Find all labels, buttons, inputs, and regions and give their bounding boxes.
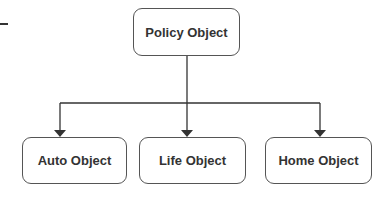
node-label: Policy Object <box>145 25 227 40</box>
node-label: Life Object <box>159 153 226 168</box>
node-label: Auto Object <box>38 153 112 168</box>
node-policy-object: Policy Object <box>133 8 240 56</box>
arrowhead-icon <box>54 130 66 137</box>
arrowhead-icon <box>314 130 326 137</box>
node-home-object: Home Object <box>265 137 372 184</box>
node-label: Home Object <box>278 153 358 168</box>
node-life-object: Life Object <box>139 137 246 184</box>
node-auto-object: Auto Object <box>22 137 127 184</box>
arrowhead-icon <box>181 130 193 137</box>
